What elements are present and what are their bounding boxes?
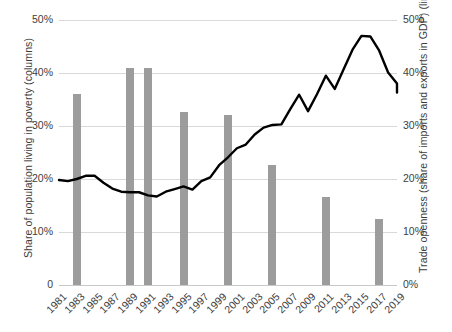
y-axis-right-tick-label: 50% [403, 14, 424, 25]
trade-openness-line [59, 36, 397, 197]
y-axis-right-tick-label: 0% [403, 279, 418, 290]
gridline [59, 285, 397, 286]
y-axis-right-tick-label: 30% [403, 120, 424, 131]
y-axis-left-tick-label: 40% [32, 67, 53, 78]
y-axis-left-tick-label: 10% [32, 226, 53, 237]
y-axis-left-tick-label: 50% [32, 14, 53, 25]
chart-container: Share of population living in poverty (c… [0, 0, 452, 332]
y-axis-left-tick-label: 20% [32, 173, 53, 184]
y-axis-left-tick-label: 0 [47, 279, 53, 290]
y-axis-right-tick-label: 40% [403, 67, 424, 78]
y-axis-right-tick-label: 20% [403, 173, 424, 184]
y-axis-left-tick-label: 30% [32, 120, 53, 131]
plot-area: 010%20%30%40%50% 0%10%20%30%40%50% 19811… [59, 20, 397, 285]
y-axis-right-tick-label: 10% [403, 226, 424, 237]
line-series [59, 0, 397, 285]
